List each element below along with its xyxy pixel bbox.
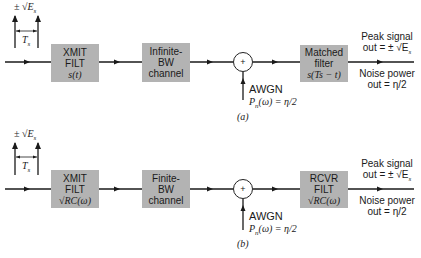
peak-signal-value: out = ± √E — [363, 169, 409, 180]
block-line3: s(Ts − t) — [307, 69, 341, 80]
caption-b: (b) — [237, 238, 249, 249]
xmit-filter-block-b: XMIT FILT √RC(ω) — [51, 170, 99, 208]
amplitude-subscript: s — [34, 134, 37, 142]
peak-signal-line1: Peak signal — [352, 31, 421, 42]
peak-signal-line2: out = ± √Es — [352, 169, 421, 185]
caption-a: (a) — [237, 111, 249, 122]
block-line3: channel — [148, 68, 183, 79]
block-line1: XMIT — [63, 173, 87, 184]
block-line1: Matched — [305, 47, 343, 58]
input-amplitude-label: ± √Es — [14, 128, 36, 144]
noise-power-output-b: Noise power out = η/2 — [352, 195, 421, 217]
block-line1: Infinite- — [150, 46, 183, 57]
symbol-period-label: Ts — [22, 34, 30, 50]
channel-block-a: Infinite- BW channel — [142, 43, 190, 82]
symbol-period-label: Ts — [22, 160, 30, 176]
peak-signal-output-b: Peak signal out = ± √Es — [352, 158, 421, 185]
block-line2: BW — [158, 57, 174, 68]
peak-signal-value: out = ± √E — [363, 42, 409, 53]
summing-junction-b: + — [233, 179, 253, 199]
summing-junction-a: + — [233, 52, 253, 72]
noise-power-line2: out = η/2 — [352, 79, 421, 90]
noise-power-line1: Noise power — [352, 195, 421, 206]
noise-power-output-a: Noise power out = η/2 — [352, 68, 421, 90]
block-line3: √RC(ω) — [59, 195, 91, 206]
noise-psd-label-b: Pn(ω) = η/2 — [249, 223, 297, 239]
noise-power-line2: out = η/2 — [352, 206, 421, 217]
block-line2: FILT — [314, 184, 334, 195]
noise-psd-label-a: Pn(ω) = η/2 — [249, 96, 297, 112]
period-subscript: s — [28, 40, 31, 48]
peak-signal-subscript: s — [409, 175, 412, 183]
xmit-filter-block-a: XMIT FILT s(t) — [51, 44, 99, 82]
block-line3: channel — [148, 195, 183, 206]
peak-signal-subscript: s — [409, 48, 412, 56]
awgn-label-b: AWGN — [249, 211, 283, 222]
amplitude-text: ± √E — [14, 1, 34, 12]
amplitude-subscript: s — [34, 7, 37, 15]
awgn-label-a: AWGN — [249, 84, 283, 95]
peak-signal-line1: Peak signal — [352, 158, 421, 169]
block-line2: FILT — [65, 184, 85, 195]
block-line1: Finite- — [152, 173, 180, 184]
peak-signal-output-a: Peak signal out = ± √Es — [352, 31, 421, 58]
input-amplitude-label: ± √Es — [14, 1, 36, 17]
block-line3: √RC(ω) — [308, 195, 340, 206]
period-subscript: s — [28, 166, 31, 174]
plus-icon: + — [240, 58, 245, 67]
noise-power-line1: Noise power — [352, 68, 421, 79]
block-line1: RCVR — [310, 173, 338, 184]
amplitude-text: ± √E — [14, 128, 34, 139]
psd-expression: (ω) = η/2 — [259, 223, 297, 234]
block-line2: BW — [158, 184, 174, 195]
channel-block-b: Finite- BW channel — [142, 170, 190, 208]
psd-expression: (ω) = η/2 — [259, 96, 297, 107]
peak-signal-line2: out = ± √Es — [352, 42, 421, 58]
block-line3: s(t) — [68, 69, 81, 80]
matched-filter-block: Matched filter s(Ts − t) — [300, 45, 348, 82]
block-line2: filter — [315, 58, 334, 69]
block-line1: XMIT — [63, 47, 87, 58]
receive-filter-block: RCVR FILT √RC(ω) — [300, 171, 348, 208]
block-line2: FILT — [65, 58, 85, 69]
plus-icon: + — [240, 185, 245, 194]
